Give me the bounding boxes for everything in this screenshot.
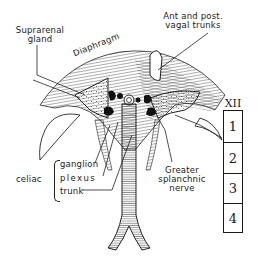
label-gland-text: gland (10, 35, 70, 44)
label-nerve-text: nerve (152, 184, 212, 193)
label-ganglion: ganglion (60, 160, 98, 169)
label-vagal-line2: vagal trunks (143, 21, 243, 30)
label-trunk: trunk (60, 187, 84, 196)
label-vagal-trunks: Ant and post. vagal trunks (143, 12, 243, 30)
vertebra-l3: 3 (223, 173, 243, 204)
label-plexus: plexus (60, 174, 96, 183)
label-suprarenal-gland: Suprarenal gland (10, 26, 70, 44)
label-greater-splanchnic-nerve: Greater splanchnic nerve (152, 166, 212, 193)
right-suprarenal-gland (150, 91, 200, 118)
vertebra-header-xii: XII (223, 97, 243, 110)
vertebra-l1: 1 (223, 110, 243, 143)
esophagus-opening (150, 51, 162, 81)
vertebra-l4: 4 (223, 203, 243, 233)
vertebra-l2: 2 (223, 142, 243, 174)
label-celiac: celiac (16, 175, 42, 184)
